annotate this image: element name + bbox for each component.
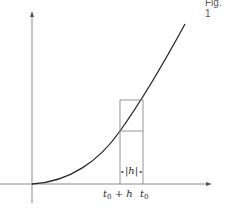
y-axis-arrow-icon [30, 11, 34, 17]
arrow-right-icon [140, 171, 143, 173]
tick-label-t0: t0 [140, 188, 149, 201]
figure-caption: Fig. 1 [205, 0, 229, 19]
function-curve [32, 24, 185, 184]
y-axis [30, 11, 34, 203]
derivative-diagram [0, 0, 229, 208]
x-axis-arrow-icon [206, 182, 212, 186]
arrow-left-icon [121, 171, 124, 173]
tick-label-t0-plus-h: t0 + h [103, 188, 133, 201]
width-marker-label: |h| [125, 165, 138, 176]
